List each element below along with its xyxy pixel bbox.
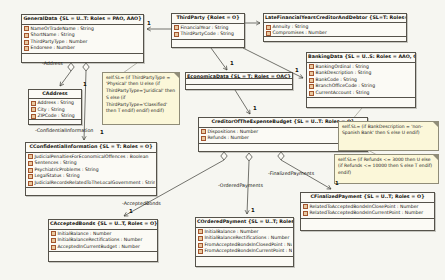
class-general-data: GeneralData {SL = U..T: Roles = PAO, AAO… (21, 14, 144, 63)
attributes-compartment: BankingOrdinal : StringBankDescription :… (307, 63, 415, 98)
attributes-compartment: Address : StringCity : StringZIPCode : S… (29, 99, 81, 119)
uml-class-diagram-figure: { "colors": { "class_fill": "#fbfaf5", "… (0, 0, 445, 280)
class-title: CAddress (29, 90, 81, 99)
aggregation-diamond-orderedpayments (246, 153, 252, 161)
note-refunds: self.SL= (if Refunds <= 3000 then U else… (334, 154, 439, 184)
role-address: -Address (42, 62, 63, 67)
attribute-icon (31, 107, 36, 112)
operations-compartment (26, 187, 156, 195)
class-title: COrderedPayment {SL = U..T; Roles = O} (196, 218, 293, 228)
aggregation-diamond-finalizedpayments (278, 152, 284, 160)
class-title: CFinalizedPayment {SL = U..T; Roles = O} (301, 193, 434, 203)
attributes-compartment: JudicialPenaltiesForEconomicalOffences :… (26, 153, 156, 188)
operations-compartment (196, 256, 293, 266)
attribute-icon (28, 161, 33, 166)
attribute-icon (24, 40, 29, 45)
operations-compartment (186, 84, 292, 89)
class-c-confidential-information: CConfidentialInformation {SL = T: Roles … (25, 142, 157, 196)
attribute-row: RelatedToAcceptedBondsInCurrentPoint : N… (303, 210, 433, 217)
note-fold-corner-icon (174, 73, 179, 78)
operations-compartment (49, 251, 157, 261)
role-confidentialinformation: -ConfidentialInformation (35, 129, 93, 134)
class-c-address: CAddressAddress : StringCity : StringZIP… (28, 89, 82, 125)
attribute-icon (174, 25, 179, 30)
attribute-icon (51, 245, 56, 250)
attribute-row: CurrentAccount : String (309, 90, 414, 97)
attribute-icon (309, 71, 314, 76)
note-fold-corner-icon (433, 122, 438, 127)
attribute-icon (201, 129, 206, 134)
attributes-compartment: FinancialYear : StringThirdPartyCode : S… (172, 24, 244, 39)
attributes-compartment: RelatedToAcceptedBondsInClosePoint : Num… (301, 203, 434, 218)
class-economica-data: EconomicaData {SL = T: Roles = OAC} (185, 72, 293, 90)
aggregation-diamond-address (68, 63, 74, 71)
association-thirdparty-to-economicadata (211, 48, 227, 70)
attributes-compartment: NameOrTradeName : StringShortName : Stri… (22, 25, 143, 53)
attributes-compartment: InitialBalance : NumberInitialBalanceRec… (49, 230, 157, 252)
class-title: GeneralData {SL = U..T: Roles = PAO, AAO… (22, 15, 143, 25)
attribute-icon (201, 136, 206, 141)
operations-compartment (22, 53, 143, 62)
class-third-party: ThirdParty {Roles = O}FinancialYear : St… (171, 13, 245, 48)
attribute-icon (266, 25, 271, 30)
attribute-icon (309, 78, 314, 83)
attribute-row: ThirdPartyCode : String (174, 31, 243, 38)
role-orderedpayments: -OrderedPayments (218, 184, 263, 189)
attribute-text: JudicialRecordsRelatedToTheLocalGovernme… (35, 180, 156, 187)
operations-compartment (172, 39, 244, 47)
attribute-icon (28, 154, 33, 159)
association-generaldata-to-caddress (60, 71, 71, 86)
attribute-icon (28, 168, 33, 173)
class-c-accepted-bonds: CAcceptedBonds {SL = U..T, Roles = O}Ini… (48, 219, 158, 262)
mult-creditorbudget: 1 (253, 106, 257, 111)
attribute-icon (198, 236, 203, 241)
attribute-icon (24, 26, 29, 31)
mult-confidentialinformation: 1 (100, 130, 104, 135)
attribute-icon (51, 238, 56, 243)
attribute-icon (174, 32, 179, 37)
operations-compartment (264, 36, 406, 41)
attribute-text: Endorsee : Number (31, 45, 75, 52)
attribute-text: CurrentAccount : String (316, 90, 370, 97)
class-title: LateFinancialYearsCreditorAndDebtor {SL=… (264, 14, 406, 23)
class-title: BankingData {SL = U..S: Roles = AAO, OAC… (307, 53, 415, 63)
attribute-icon (303, 211, 308, 216)
class-late-financial: LateFinancialYearsCreditorAndDebtor {SL=… (263, 13, 407, 42)
class-title: CConfidentialInformation {SL = T: Roles … (26, 143, 156, 153)
attribute-icon (28, 174, 33, 179)
mult-finalizedpayment: 1 (335, 181, 339, 186)
mult-economicadata: 1 (230, 61, 234, 66)
attribute-row: AcceptedInCurrentBudget : Number (51, 244, 156, 251)
mult-generaldata: 1 (147, 21, 151, 26)
attribute-text: AcceptedInCurrentBudget : Number (58, 244, 140, 251)
attributes-compartment: InitialBalance : NumberInitialBalanceRec… (196, 228, 293, 256)
attribute-icon (309, 84, 314, 89)
attribute-icon (309, 64, 314, 69)
attribute-icon (24, 33, 29, 38)
attribute-text: ThirdPartyCode : String (181, 31, 234, 38)
note-fold-corner-icon (433, 155, 438, 160)
attribute-icon (51, 231, 56, 236)
note-text: self.SL= (if Refunds <= 3000 then U else… (338, 157, 432, 176)
attribute-text: Refunds : Number (208, 135, 249, 142)
association-economicadata-to-creditorbudget (235, 90, 250, 114)
attribute-text: RelatedToAcceptedBondsInCurrentPoint : N… (310, 210, 424, 217)
aggregation-diamond-acceptedbonds (221, 152, 227, 160)
attribute-icon (28, 181, 33, 186)
operations-compartment (29, 119, 81, 124)
attribute-icon (198, 249, 203, 254)
attribute-row: Endorsee : Number (24, 45, 142, 52)
role-acceptedbonds: -AcceptedBonds (122, 202, 161, 207)
aggregation-diamond-confidentialinformation (83, 63, 89, 71)
mult-orderedpayment: 1 (251, 208, 255, 213)
class-banking-data: BankingData {SL = U..S: Roles = AAO, OAC… (306, 52, 416, 108)
attribute-icon (309, 91, 314, 96)
note-text: self.SL= (if BankDescription = 'non-Span… (342, 124, 423, 136)
attribute-icon (198, 229, 203, 234)
attribute-text: FromAcceptedBondsInCurrentPoint : Number (205, 248, 293, 255)
class-title: ThirdParty {Roles = O} (172, 14, 244, 24)
note-thirdpartytype: self.SL= (if ThirdPartyType = 'Physical'… (102, 72, 180, 125)
attribute-icon (31, 101, 36, 106)
operations-compartment (301, 218, 434, 230)
role-finalizedpayments: -FinalizedPayments (268, 172, 314, 177)
